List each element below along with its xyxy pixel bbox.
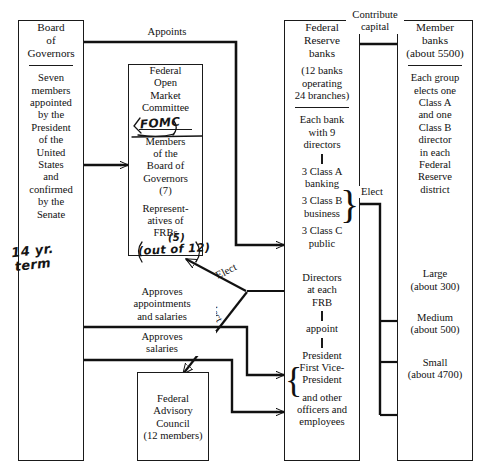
member-banks-small: Small (about 4700) [398,357,472,382]
member-banks-medium: Medium (about 500) [398,312,472,337]
box-federal-advisory-council[interactable]: Federal Advisory Council (12 members) [137,372,209,461]
fac-lines: Federal Advisory Council (12 members) [138,373,208,443]
frb-subcount: (12 banks operating 24 branches) [285,65,359,102]
label-approves-appointments: Approves appointments and salaries [108,286,216,323]
member-banks-heading: Member banks (about 5500) [398,21,472,60]
frb-connector-bar-3 [321,338,322,348]
handwritten-term-annotation: 14 yr. term [11,242,56,274]
fomc-heading: Federal Open Market Committee [129,65,202,115]
bog-body: Seven members appointed by the President… [19,72,83,221]
brace-president: { [285,362,302,398]
member-banks-body: Each group elects one Class A and one Cl… [398,72,472,196]
label-contribute-capital: Contribute capital [346,9,404,34]
box-member-banks[interactable]: Member banks (about 5500) Each group ele… [397,20,473,461]
bog-heading: Board of Governors [19,21,83,60]
label-approves-salaries: Approves salaries [108,331,216,356]
member-banks-divider [408,65,462,66]
label-appoints: Appoints [130,26,204,38]
bog-divider [29,65,73,66]
frb-divider [295,107,349,108]
frb-class-c: 3 Class C public [285,225,359,250]
label-elect-right: Elect [352,186,392,198]
fomc-members: Members of the Board of Governors (7) [129,136,202,198]
handwritten-out-of-marks [134,238,206,266]
handwritten-fomc-marks [130,112,206,140]
frb-connector-bar-2 [321,311,322,321]
box-fomc[interactable]: Federal Open Market Committee Members of… [128,64,203,256]
frb-directors-each: Directors at each FRB [285,272,359,309]
frb-connector-bar-1 [321,154,322,164]
frb-directors-heading: Each bank with 9 directors [285,114,359,151]
member-banks-large: Large (about 300) [398,268,472,293]
frb-appoint: appoint [285,323,359,335]
diagram-canvas: Board of Governors Seven members appoint… [0,0,481,475]
fomc-reps: Represent- atives of FRBs [129,203,202,240]
